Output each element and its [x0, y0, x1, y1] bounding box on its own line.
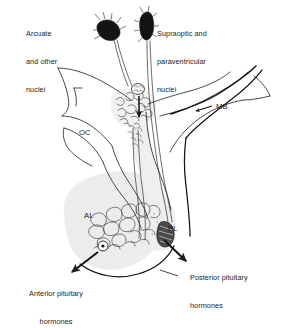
- label-supraoptic-line-2: paraventricular: [157, 57, 247, 66]
- label-arcuate-line-1: Arcuate: [26, 29, 86, 38]
- supraoptic-neuron-body: [140, 12, 154, 40]
- label-anterior-lobe: AL: [84, 212, 94, 220]
- label-anterior-pituitary-hormones: Anterior pituitary hormones: [8, 271, 104, 328]
- label-posterior-lobe: PL: [168, 225, 178, 233]
- arcuate-nucleus-cluster: [93, 12, 132, 86]
- label-optic-chiasm: OC: [79, 129, 91, 137]
- label-supraoptic-paraventricular-nuclei: Supraoptic and paraventricular nuclei: [157, 11, 247, 112]
- label-arcuate-line-2: and other: [26, 57, 86, 66]
- median-eminence-fill: [111, 88, 156, 128]
- mammillary-body-lower: [244, 96, 270, 100]
- label-mammillary-body: MB: [216, 103, 228, 111]
- label-supraoptic-line-3: nuclei: [157, 85, 247, 94]
- label-arcuate-nuclei: Arcuate and other nuclei: [26, 11, 86, 112]
- label-posterior-hormones-line-2: hormones: [190, 301, 284, 310]
- arcuate-neuron-body: [97, 20, 120, 41]
- posterior-hormone-arrow: [164, 240, 186, 261]
- posterior-hormone-leader: [160, 270, 178, 276]
- label-posterior-hormones-line-1: Posterior pituitary: [190, 273, 284, 282]
- label-arcuate-line-3: nuclei: [26, 85, 86, 94]
- label-supraoptic-line-1: Supraoptic and: [157, 29, 247, 38]
- sella-bottom-contour: [185, 138, 191, 236]
- label-posterior-pituitary-hormones: Posterior pituitary hormones: [190, 255, 284, 328]
- label-anterior-hormones-line-2: hormones: [8, 317, 104, 326]
- anterior-lobe-vessel-hilum: [98, 241, 108, 251]
- arcuate-axon-bundle: [114, 40, 132, 86]
- arcuate-terminal-bulb: [132, 84, 145, 95]
- mammillary-body-arc: [254, 76, 270, 96]
- label-anterior-hormones-line-1: Anterior pituitary: [8, 289, 104, 298]
